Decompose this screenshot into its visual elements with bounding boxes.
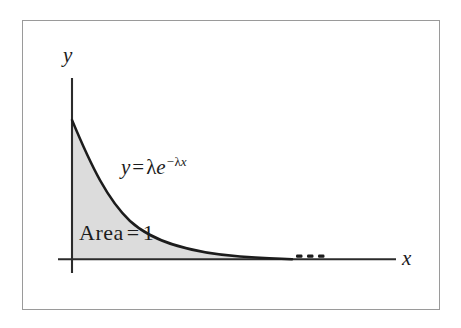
- x-axis-label: x: [402, 248, 411, 269]
- equation-exponent-variable: x: [181, 154, 187, 169]
- equation-operator: =: [130, 155, 146, 179]
- equation-coefficient: λ: [146, 155, 156, 179]
- ellipsis-dots-icon: [296, 255, 325, 258]
- area-annotation-label: Area=1: [79, 222, 154, 244]
- area-operator: =: [124, 220, 143, 245]
- equation-base: e: [156, 155, 165, 179]
- curve-equation-label: y=λe−λx: [121, 155, 187, 178]
- y-axis-label: y: [63, 45, 72, 66]
- area-value: 1: [143, 220, 155, 245]
- figure-container: y x y=λe−λx Area=1: [0, 0, 461, 328]
- equation-lhs: y: [121, 155, 130, 179]
- area-text: Area: [79, 220, 124, 245]
